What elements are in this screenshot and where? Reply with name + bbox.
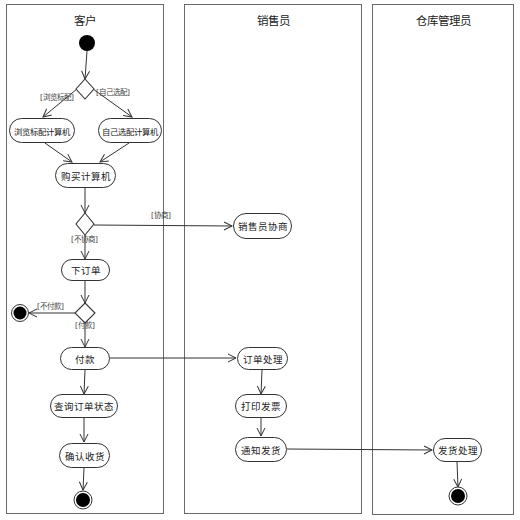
guard-no-negotiate: [不协商] [71,233,98,244]
guard-self-config: [自己选配] [96,86,130,97]
decision-config-choice [76,79,94,99]
activity-order-processing: 订单处理 [237,347,288,370]
end-node-customer [74,491,92,509]
guard-browse-standard: [浏览标配] [40,91,74,102]
activity-sales-negotiation: 销售员协商 [233,213,292,239]
activity-pay: 付款 [60,347,110,370]
guard-pay: [付款] [75,319,95,330]
decision-negotiate [76,213,94,235]
activity-confirm-receipt: 确认收货 [59,443,110,468]
activity-print-invoice: 打印发票 [235,394,287,418]
activity-buy-computer: 购买计算机 [55,163,116,188]
guard-no-pay: [不付款] [37,300,64,311]
activity-place-order: 下订单 [61,259,110,281]
activity-notify-shipping: 通知发货 [235,437,287,462]
end-node-warehouse [449,487,467,505]
activity-query-order-status: 查询订单状态 [50,394,118,418]
activity-browse-standard: 浏览标配计算机 [9,118,75,143]
activity-shipping-processing: 发货处理 [433,438,482,462]
activity-self-config: 自己选配计算机 [98,118,162,143]
end-node-no-pay [12,305,29,322]
guard-negotiate: [协商] [151,209,171,220]
start-node [79,35,95,51]
